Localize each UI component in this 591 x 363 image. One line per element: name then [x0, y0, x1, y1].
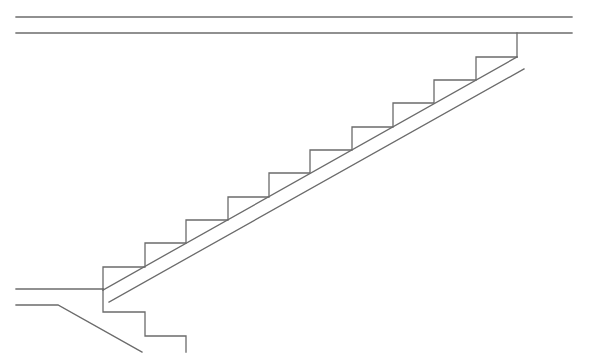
staircase-svg: [0, 0, 591, 363]
stair-soffit-lower: [109, 69, 524, 302]
staircase-drawing: [0, 0, 591, 363]
stair-soffit-upper: [103, 57, 517, 290]
